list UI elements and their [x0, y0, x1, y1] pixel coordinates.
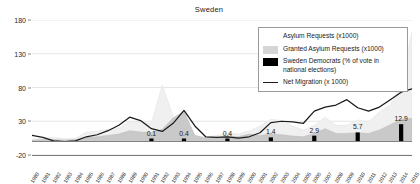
legend-swatch-sd-icon	[263, 58, 278, 66]
legend-item-label: Asylum Requests (x1000)	[283, 32, 359, 41]
x-axis-tick-label: 1988	[116, 171, 127, 184]
sd-value-label: 5.7	[353, 123, 362, 130]
legend-swatch-asylum-icon	[263, 33, 278, 41]
legend-item[interactable]: Sweden Democrats (% of vote in national …	[263, 57, 402, 74]
sd-value-label: 2.9	[310, 127, 319, 134]
legend-swatch-granted-icon	[263, 46, 278, 54]
x-axis-tick-label: 1982	[51, 171, 62, 184]
x-axis-tick-label: 1997	[214, 171, 225, 184]
x-axis-tick-label: 1990	[138, 171, 149, 184]
legend-item[interactable]: Asylum Requests (x1000)	[263, 32, 402, 41]
sd-value-label: 0.4	[179, 130, 188, 137]
y-axis-tick-label: 130	[0, 50, 26, 57]
x-axis-tick-label: 1996	[203, 171, 214, 184]
x-axis-tick-label: 1986	[94, 171, 105, 184]
x-axis-tick-label: 1993	[170, 171, 181, 184]
legend-item-label: Sweden Democrats (% of vote in national …	[283, 57, 402, 74]
x-axis-tick-label: 2009	[344, 171, 355, 184]
x-axis-labels: 1980198119821983198419851986198719881989…	[32, 156, 412, 184]
x-axis-tick-label: 2013	[387, 171, 398, 184]
legend-item-label: Net Migration (x 1000)	[283, 78, 348, 87]
x-axis-tick-label: 1980	[29, 171, 40, 184]
x-axis-tick-label: 1985	[83, 171, 94, 184]
y-axis-tick-label: -20	[0, 152, 26, 159]
x-axis-tick-label: 2002	[268, 171, 279, 184]
x-axis-tick-label: 1994	[181, 171, 192, 184]
y-axis-tick-mark	[28, 155, 31, 156]
y-axis-tick-mark	[28, 87, 31, 88]
x-axis-tick-label: 2004	[290, 171, 301, 184]
x-axis-tick-label: 1999	[235, 171, 246, 184]
x-axis-tick-label: 2001	[257, 171, 268, 184]
x-axis-tick-label: 2008	[333, 171, 344, 184]
legend-item-label: Granted Asylum Requests (x1000)	[283, 45, 384, 54]
x-axis-tick-label: 1989	[127, 171, 138, 184]
x-axis-tick-label: 1987	[105, 171, 116, 184]
chart-title: Sweden	[0, 5, 418, 14]
x-axis-tick-label: 1991	[149, 171, 160, 184]
x-axis-tick-label: 2006	[311, 171, 322, 184]
y-axis-tick-label: 80	[0, 84, 26, 91]
legend-swatch-line-icon	[263, 79, 278, 87]
y-axis-tick-mark	[28, 20, 31, 21]
x-axis-tick-label: 1992	[159, 171, 170, 184]
sd-value-label: 0.4	[223, 130, 232, 137]
sd-value-label: 0.1	[147, 130, 156, 137]
x-axis-tick-label: 2010	[355, 171, 366, 184]
legend-item[interactable]: Net Migration (x 1000)	[263, 78, 402, 87]
x-axis-tick-label: 1983	[62, 171, 73, 184]
sd-value-label: 12.9	[395, 115, 408, 122]
y-axis-tick-mark	[28, 121, 31, 122]
x-axis-tick-label: 2003	[279, 171, 290, 184]
x-axis-tick-label: 2014	[398, 171, 409, 184]
x-axis-tick-label: 1998	[225, 171, 236, 184]
x-axis-tick-label: 1981	[40, 171, 51, 184]
legend-item[interactable]: Granted Asylum Requests (x1000)	[263, 45, 402, 54]
x-axis-tick-label: 1984	[73, 171, 84, 184]
x-axis-tick-label: 2011	[366, 171, 377, 184]
x-axis-tick-label: 2005	[301, 171, 312, 184]
x-axis-tick-label: 2007	[322, 171, 333, 184]
x-axis-tick-label: 1995	[192, 171, 203, 184]
x-axis-tick-label: 2015	[409, 171, 420, 184]
y-axis-tick-label: 30	[0, 118, 26, 125]
sd-value-label: 1.4	[266, 128, 275, 135]
x-axis-tick-label: 2000	[246, 171, 257, 184]
x-axis-tick-label: 2012	[377, 171, 388, 184]
y-axis-tick-mark	[28, 53, 31, 54]
y-axis-tick-label: 180	[0, 17, 26, 24]
chart-legend: Asylum Requests (x1000)Granted Asylum Re…	[258, 27, 408, 92]
